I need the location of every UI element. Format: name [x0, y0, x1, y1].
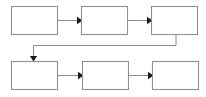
process-box-shape[interactable] [82, 7, 128, 35]
flowchart-diagram [0, 0, 206, 97]
arrow-head-icon [30, 56, 37, 62]
process-box-6[interactable] [153, 62, 199, 90]
process-box-shape[interactable] [83, 62, 129, 90]
process-box-shape[interactable] [153, 62, 199, 90]
connector-line [34, 35, 177, 57]
process-box-2[interactable] [82, 7, 128, 35]
process-box-5[interactable] [83, 62, 129, 90]
connector-box1-to-box2 [58, 17, 83, 24]
flowchart-canvas [0, 0, 206, 97]
process-box-4[interactable] [12, 62, 58, 90]
connector-box2-to-box3 [128, 17, 153, 24]
process-box-shape[interactable] [152, 7, 198, 35]
process-box-1[interactable] [12, 7, 58, 35]
process-box-shape[interactable] [12, 62, 58, 90]
process-box-shape[interactable] [12, 7, 58, 35]
connector-box3-to-box4 [30, 35, 176, 62]
process-box-3[interactable] [152, 7, 198, 35]
connector-box5-to-box6 [129, 72, 154, 79]
connector-box4-to-box5 [58, 72, 84, 79]
